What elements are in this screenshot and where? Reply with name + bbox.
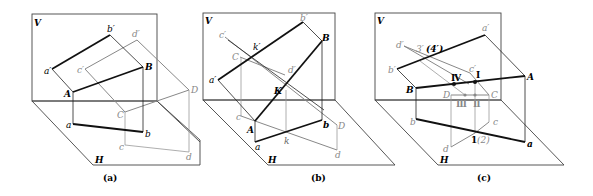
panel-b: V H c′ k′ C b′ B d′ a′ K c A b D a k d (… [203,13,395,183]
label-D: D [190,85,198,95]
label-2: (2) [477,135,490,145]
label-b: b [145,129,151,139]
label-k-prime: k′ [253,42,261,52]
label-b-prime: b′ [300,13,308,23]
label-K: K [273,86,283,96]
plane-label-h: H [267,155,277,165]
label-a-prime: a′ [209,75,216,85]
label-d: d [186,152,192,162]
label-B: B [321,33,330,43]
label-c-prime: c′ [77,65,84,75]
label-II: Ⅱ [473,99,481,109]
plane-label-v: V [377,16,385,26]
label-d: d [443,144,449,154]
label-c-prime: c′ [219,30,226,40]
point-I [473,80,477,84]
plane-label-v: V [205,16,213,26]
h-plane-c [375,100,564,165]
label-D: D [337,121,345,131]
label-D: D [442,90,450,100]
label-I: Ⅰ [476,70,480,80]
label-a: a [66,120,71,130]
label-b: b [323,120,329,130]
label-C: C [232,52,239,62]
label-A: A [526,72,534,82]
label-A: A [246,125,254,135]
panel-a: V H a′ b′ c′ d′ A B C D a b c d (a) [32,14,200,183]
label-a-prime: a′ [44,66,51,76]
label-c: c [493,117,498,127]
label-B: B [144,62,153,72]
label-d-prime: d′ [396,40,404,50]
label-d: d [335,150,341,160]
label-A: A [63,89,71,99]
caption-a: (a) [103,173,117,183]
plane-label-h: H [439,155,449,165]
label-C: C [117,110,124,120]
projection-diagrams: V H a′ b′ c′ d′ A B C D a b c d (a) V [0,0,593,196]
caption-c: (c) [477,173,491,183]
label-k: k [284,136,289,146]
label-c: c [236,112,241,122]
label-C: C [491,90,498,100]
label-III: Ⅲ [456,99,467,109]
label-a: a [255,142,260,152]
label-b-prime: b′ [107,24,115,34]
label-IV: Ⅳ [451,73,462,83]
label-3-prime: 3′ [416,44,424,54]
h-plane-b [203,100,395,165]
panel-c: V H d′ 3′ (4′) a′ b′ c′ Ⅳ Ⅰ A B D C Ⅲ Ⅱ … [375,13,564,183]
h-plane-a [32,101,200,165]
label-b-prime: b′ [388,65,396,75]
v-plane-a [32,14,157,101]
label-a-prime: a′ [482,23,489,33]
label-b: b [410,117,416,127]
label-4-prime: (4′) [426,44,443,54]
label-c: c [119,142,124,152]
point-II [473,93,476,96]
caption-b: (b) [311,173,326,183]
plane-label-h: H [94,155,104,165]
label-d-prime: d′ [288,65,296,75]
v-plane-b [203,13,335,100]
label-d-prime: d′ [132,29,140,39]
label-a: a [527,139,533,149]
point-III [463,93,466,96]
label-B: B [405,85,414,95]
plane-label-v: V [34,18,42,28]
